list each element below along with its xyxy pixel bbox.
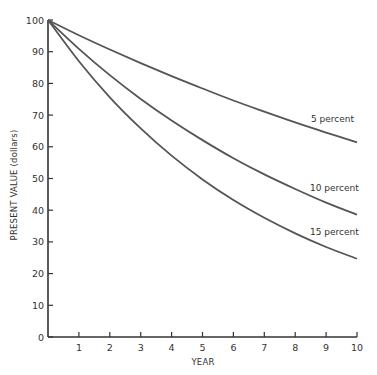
y-tick-label: 90	[32, 46, 44, 57]
x-tick-label: 1	[76, 342, 82, 353]
y-tick-label: 50	[32, 173, 44, 184]
y-tick-label: 70	[32, 110, 44, 121]
x-tick-label: 6	[230, 342, 236, 353]
y-tick-label: 10	[32, 300, 44, 311]
series-label: 15 percent	[310, 227, 359, 237]
x-tick-label: 7	[261, 342, 267, 353]
y-tick-label: 80	[32, 78, 44, 89]
y-tick-label: 20	[32, 268, 44, 279]
y-tick-label: 30	[32, 236, 44, 247]
series-label: 5 percent	[311, 114, 355, 124]
x-tick-label: 10	[351, 342, 363, 353]
x-tick-label: 2	[107, 342, 113, 353]
y-tick-label: 40	[32, 205, 44, 216]
x-tick-label: 9	[323, 342, 329, 353]
x-tick-label: 4	[169, 342, 175, 353]
x-axis-title: YEAR	[190, 357, 214, 367]
y-axis-ticks: 0102030405060708090100	[26, 15, 53, 343]
series-label: 10 percent	[310, 183, 359, 193]
y-tick-label: 100	[26, 15, 44, 26]
y-axis-title: PRESENT VALUE (dollars)	[9, 130, 19, 241]
x-axis-ticks: 12345678910	[76, 332, 363, 353]
present-value-chart: 0102030405060708090100 12345678910 5 per…	[0, 0, 377, 375]
series-labels: 5 percent10 percent15 percent	[310, 114, 359, 237]
x-tick-label: 5	[199, 342, 205, 353]
x-tick-label: 8	[292, 342, 298, 353]
y-tick-label: 60	[32, 141, 44, 152]
series-lines	[48, 20, 357, 259]
y-tick-label: 0	[38, 332, 44, 343]
x-tick-label: 3	[138, 342, 144, 353]
